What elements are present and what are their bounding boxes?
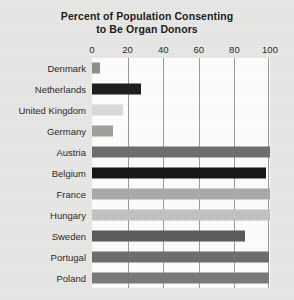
chart-rows: DenmarkNetherlandsUnited KingdomGermanyA… (0, 58, 294, 288)
bar-hungary (92, 209, 270, 220)
x-tick-label-80: 80 (229, 44, 240, 55)
category-label-belgium: Belgium (52, 167, 86, 178)
x-tick-label-40: 40 (158, 44, 169, 55)
category-label-united-kingdom: United Kingdom (18, 105, 86, 116)
category-label-hungary: Hungary (50, 209, 86, 220)
organ-donor-bar-chart: Percent of Population Consenting to Be O… (0, 0, 294, 300)
bar-belgium (92, 167, 266, 178)
chart-title: Percent of Population Consenting to Be O… (30, 10, 264, 36)
chart-row: United Kingdom (0, 100, 294, 121)
chart-row: Netherlands (0, 79, 294, 100)
category-label-sweden: Sweden (52, 230, 86, 241)
category-label-denmark: Denmark (47, 63, 86, 74)
chart-row: Austria (0, 142, 294, 163)
x-tick-label-100: 100 (262, 44, 278, 55)
bar-sweden (92, 230, 245, 241)
chart-row: Portugal (0, 246, 294, 267)
chart-row: Sweden (0, 225, 294, 246)
category-label-netherlands: Netherlands (35, 84, 86, 95)
bar-denmark (92, 63, 100, 74)
chart-row: Poland (0, 267, 294, 288)
category-label-austria: Austria (56, 147, 86, 158)
chart-row: Germany (0, 121, 294, 142)
x-tick-label-20: 20 (122, 44, 133, 55)
x-tick-label-0: 0 (89, 44, 94, 55)
bar-netherlands (92, 84, 141, 95)
chart-row: Belgium (0, 163, 294, 184)
chart-row: Hungary (0, 204, 294, 225)
bar-united-kingdom (92, 105, 123, 116)
category-label-germany: Germany (47, 126, 86, 137)
x-tick-label-60: 60 (194, 44, 205, 55)
chart-row: France (0, 183, 294, 204)
category-label-france: France (56, 188, 86, 199)
chart-row: Denmark (0, 58, 294, 79)
bar-portugal (92, 251, 269, 262)
category-label-portugal: Portugal (51, 251, 86, 262)
bar-germany (92, 126, 113, 137)
chart-title-line-2: to Be Organ Donors (30, 23, 264, 36)
bar-france (92, 188, 270, 199)
category-label-poland: Poland (56, 272, 86, 283)
chart-title-line-1: Percent of Population Consenting (30, 10, 264, 23)
bar-poland (92, 272, 269, 283)
x-axis-tick-labels: 020406080100 (0, 44, 294, 57)
bar-austria (92, 147, 270, 158)
